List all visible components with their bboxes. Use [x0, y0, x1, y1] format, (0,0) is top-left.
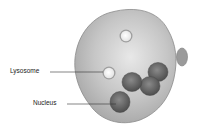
lysosome-top	[120, 30, 133, 43]
granule-external	[177, 48, 188, 66]
lysosome-label: Lysosome	[10, 68, 39, 75]
lysosome	[103, 67, 116, 80]
nucleus-label: Nucleus	[33, 100, 56, 107]
